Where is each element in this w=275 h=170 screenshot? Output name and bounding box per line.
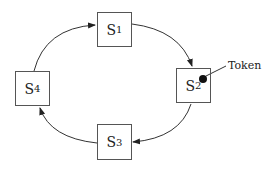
node-s2: S2 [176, 68, 211, 103]
node-s1: S1 [97, 12, 132, 47]
token-label: Token [228, 59, 261, 72]
node-subscript: 3 [116, 137, 122, 148]
node-subscript: 2 [195, 80, 201, 91]
edge-s4-s1 [34, 25, 95, 71]
edge-s2-s3 [133, 104, 191, 142]
node-s4: S4 [15, 71, 50, 106]
node-label: S [25, 81, 35, 97]
node-subscript: 1 [116, 24, 122, 35]
edge-s1-s2 [132, 24, 192, 66]
edge-s3-s4 [40, 108, 97, 143]
node-s3: S3 [97, 124, 132, 160]
node-label: S [107, 22, 117, 38]
node-subscript: 4 [34, 83, 40, 94]
node-label: S [107, 134, 117, 150]
node-label: S [186, 78, 196, 94]
